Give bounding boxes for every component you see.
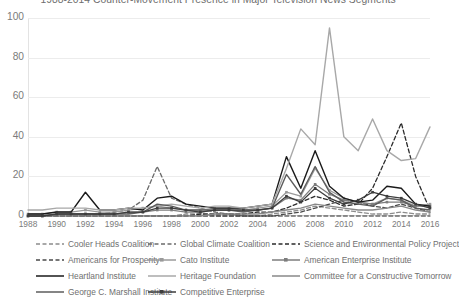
x-axis-tick-label: 2000 xyxy=(191,219,210,229)
legend-label: American Enterprise Institute xyxy=(304,256,412,264)
y-axis-tick-label: 80 xyxy=(0,52,24,62)
series-marker xyxy=(328,197,331,200)
series-marker xyxy=(242,209,245,212)
x-axis-tick-label: 2012 xyxy=(363,219,382,229)
legend-row: Cooler Heads CoalitionGlobal Climate Coa… xyxy=(0,236,436,252)
x-axis-tick-label: 2010 xyxy=(335,219,354,229)
legend-swatch-icon xyxy=(148,255,176,265)
legend-label: Heritage Foundation xyxy=(180,272,256,280)
x-axis-tick-label: 1992 xyxy=(76,219,95,229)
series-marker xyxy=(285,195,288,198)
series-marker xyxy=(285,191,288,194)
series-marker xyxy=(371,191,374,194)
x-axis-tick-label: 1990 xyxy=(47,219,66,229)
series-marker xyxy=(84,209,87,212)
legend-item[interactable]: Science and Environmental Policy Project xyxy=(272,236,459,252)
legend-swatch-icon xyxy=(148,239,176,249)
series-marker xyxy=(70,213,73,216)
y-axis-tick-label: 60 xyxy=(0,91,24,101)
legend-swatch-icon xyxy=(36,255,64,265)
x-axis-tick-label: 1996 xyxy=(134,219,153,229)
y-axis-tick-label: 40 xyxy=(0,131,24,141)
legend-label: Committee for a Constructive Tomorrow xyxy=(304,272,451,280)
legend-label: Competitive Enterprise xyxy=(180,288,265,296)
series-marker xyxy=(127,211,130,214)
legend-swatch-icon xyxy=(148,271,176,281)
series-marker xyxy=(27,215,30,218)
series-marker xyxy=(386,195,389,198)
series-marker xyxy=(343,203,346,206)
series-marker xyxy=(400,197,403,200)
chart-legend: Cooler Heads CoalitionGlobal Climate Coa… xyxy=(0,236,436,302)
x-axis-tick-label: 1988 xyxy=(19,219,38,229)
series-marker xyxy=(84,213,87,216)
legend-swatch-icon xyxy=(148,287,176,297)
x-axis-labels: 1988199019921994199619982000200220042006… xyxy=(28,219,430,233)
legend-label: Heartland Institute xyxy=(68,272,136,280)
series-marker xyxy=(213,209,216,212)
legend-item[interactable]: Cooler Heads Coalition xyxy=(36,236,154,252)
series-marker xyxy=(113,213,116,216)
series-marker xyxy=(199,211,202,214)
legend-item[interactable]: Heartland Institute xyxy=(36,268,136,284)
series-marker xyxy=(299,201,302,204)
legend-label: Cato Institute xyxy=(180,256,229,264)
x-axis-tick-label: 1998 xyxy=(162,219,181,229)
series-marker xyxy=(170,207,173,210)
series-marker xyxy=(142,211,145,214)
series-marker xyxy=(185,209,188,212)
series-marker xyxy=(228,209,231,212)
x-axis-tick-label: 2008 xyxy=(306,219,325,229)
legend-swatch-icon xyxy=(272,239,300,249)
x-axis-tick-label: 2014 xyxy=(392,219,411,229)
series-marker xyxy=(357,199,360,202)
series-marker xyxy=(429,207,432,210)
plot-area xyxy=(28,18,430,216)
series-marker xyxy=(98,213,101,216)
x-axis-tick-label: 2016 xyxy=(421,219,440,229)
series-marker xyxy=(156,207,159,210)
series-line xyxy=(28,123,430,216)
legend-swatch-icon xyxy=(36,287,64,297)
legend-row: Americans for ProsperityCato InstituteAm… xyxy=(0,252,436,268)
y-axis-labels: 020406080100 xyxy=(0,18,26,216)
legend-item[interactable]: Cato Institute xyxy=(148,252,229,268)
series-marker xyxy=(41,215,44,218)
legend-label: Americans for Prosperity xyxy=(68,256,160,264)
legend-swatch-icon xyxy=(36,239,64,249)
series-marker xyxy=(299,195,302,198)
x-axis-tick-label: 1994 xyxy=(105,219,124,229)
series-marker xyxy=(414,203,417,206)
series-marker xyxy=(314,183,317,186)
series-line xyxy=(28,188,430,216)
series-line xyxy=(28,151,430,214)
series-marker xyxy=(271,207,274,210)
x-axis-tick-label: 2002 xyxy=(220,219,239,229)
legend-item[interactable]: Competitive Enterprise xyxy=(148,284,265,300)
legend-row: George C. Marshall InstituteCompetitive … xyxy=(0,284,436,300)
legend-item[interactable]: Americans for Prosperity xyxy=(36,252,160,268)
series-marker xyxy=(256,209,259,212)
x-axis-tick-label: 2004 xyxy=(248,219,267,229)
legend-label: Science and Environmental Policy Project xyxy=(304,240,459,248)
legend-swatch-icon xyxy=(36,271,64,281)
y-axis-tick-label: 20 xyxy=(0,170,24,180)
legend-swatch-icon xyxy=(272,255,300,265)
legend-item[interactable]: Heritage Foundation xyxy=(148,268,256,284)
y-axis-tick-label: 100 xyxy=(0,12,24,22)
legend-swatch-icon xyxy=(272,271,300,281)
page-title: 1988-2014 Counter-Movement Presence in M… xyxy=(0,0,436,5)
series-marker xyxy=(314,187,317,190)
series-lines xyxy=(28,18,430,216)
legend-item[interactable]: Committee for a Constructive Tomorrow xyxy=(272,268,451,284)
x-axis-tick-label: 2006 xyxy=(277,219,296,229)
legend-item[interactable]: American Enterprise Institute xyxy=(272,252,412,268)
legend-row: Heartland InstituteHeritage FoundationCo… xyxy=(0,268,436,284)
legend-label: Cooler Heads Coalition xyxy=(68,240,154,248)
legend-item[interactable]: Global Climate Coalition xyxy=(148,236,270,252)
series-marker xyxy=(386,201,389,204)
series-marker xyxy=(55,213,58,216)
legend-label: Global Climate Coalition xyxy=(180,240,270,248)
series-line xyxy=(28,28,430,210)
